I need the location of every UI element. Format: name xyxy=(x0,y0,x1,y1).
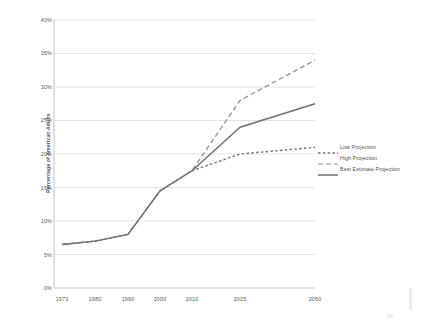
legend-item-low-projection: Low Projection xyxy=(318,141,423,152)
x-tick-2000: 2000 xyxy=(154,296,167,302)
legend-swatch-dashed-line-icon xyxy=(318,154,338,162)
x-tick-2010: 2010 xyxy=(186,296,199,302)
chart-legend: Low Projection High Projection Best Esti… xyxy=(318,141,423,174)
legend-swatch-dotted-line-icon xyxy=(318,143,338,151)
x-tick-1980: 1980 xyxy=(89,296,102,302)
x-tick-2025: 2025 xyxy=(234,296,247,302)
legend-label-best-estimate-projection: Best Estimate Projection xyxy=(340,166,400,172)
x-tick-2050: 2050 xyxy=(309,296,322,302)
x-tick-1990: 1990 xyxy=(122,296,135,302)
x-tick-1973: 1973 xyxy=(56,296,69,302)
legend-item-best-estimate-projection: Best Estimate Projection xyxy=(318,163,423,174)
legend-item-high-projection: High Projection xyxy=(318,152,423,163)
legend-label-low-projection: Low Projection xyxy=(340,144,376,150)
legend-label-high-projection: High Projection xyxy=(340,155,377,161)
scan-artifact xyxy=(386,314,393,318)
legend-swatch-solid-line-icon xyxy=(318,165,338,173)
line-chart: Percentage of American Adults 40% 35% 30… xyxy=(0,0,427,326)
scan-artifact xyxy=(409,288,412,310)
